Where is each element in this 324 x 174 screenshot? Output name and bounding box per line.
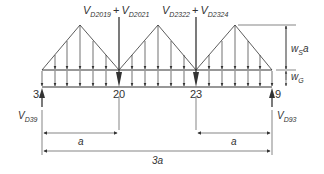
wg-label: wG: [291, 71, 304, 84]
dim-total-label: 3a: [152, 155, 164, 166]
load-dimension: [238, 25, 296, 86]
dim-left-label: a: [78, 136, 84, 147]
load-label-23: VD2322+VD2324: [162, 4, 229, 18]
load-label-20: VD2019+VD2021: [83, 4, 150, 18]
beam-diagram: VD2019+VD2021 VD2322+VD2324 wSa wG 3 20 …: [0, 0, 324, 174]
node-23-label: 23: [190, 88, 202, 100]
beam: [42, 70, 272, 87]
dim-right-label: a: [231, 136, 237, 147]
reaction-right-label: VD93: [277, 110, 297, 123]
load-arrows: [42, 25, 272, 86]
reaction-left: [39, 88, 45, 107]
span-dimensions: [42, 96, 272, 155]
point-load-20: [116, 17, 122, 87]
node-20-label: 20: [113, 88, 125, 100]
ws-label: wSa: [291, 43, 309, 56]
point-load-23: [193, 17, 199, 87]
node-9-label: 9: [275, 88, 281, 100]
triangular-load: [42, 25, 272, 70]
node-3-label: 3: [33, 88, 39, 100]
reaction-left-label: VD39: [18, 110, 38, 123]
